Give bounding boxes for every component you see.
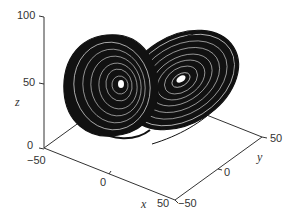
z-tick-0 (39, 148, 44, 149)
z-tick-label-50: 50 (23, 77, 35, 88)
y-axis-line (175, 137, 262, 200)
attractor-left-wing (64, 35, 158, 138)
x-tick-label-0: 0 (100, 177, 106, 188)
z-tick-100 (39, 16, 44, 17)
y-tick-label-neg50: −50 (178, 198, 197, 209)
z-axis-label: z (15, 97, 20, 108)
x-tick-label-50: 50 (157, 198, 169, 209)
y-tick-label-50: 50 (270, 133, 282, 144)
y-axis-label: y (257, 152, 262, 163)
z-tick-label-0: 0 (27, 140, 33, 151)
y-tick-50 (262, 137, 267, 138)
z-tick-label-100: 100 (17, 10, 35, 21)
y-tick-0 (218, 169, 222, 170)
x-tick-label-neg50: −50 (27, 155, 46, 166)
z-tick-50 (39, 83, 44, 84)
x-tick-0 (109, 171, 111, 174)
lorenz-attractor-plot (0, 0, 295, 218)
y-tick-label-0: 0 (224, 167, 230, 178)
x-axis-label: x (141, 199, 146, 210)
